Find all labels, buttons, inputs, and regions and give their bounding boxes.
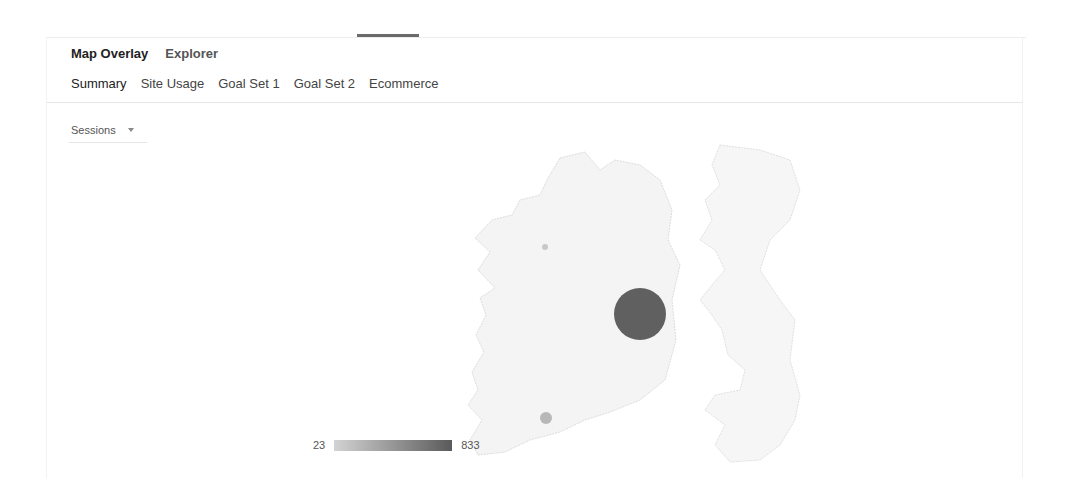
sub-tabs: Summary Site Usage Goal Set 1 Goal Set 2… [71,76,438,91]
subtab-summary[interactable]: Summary [71,76,127,91]
subtab-site-usage[interactable]: Site Usage [141,76,205,91]
metric-dropdown-value: Sessions [71,124,116,136]
subtab-goal-set-2[interactable]: Goal Set 2 [294,76,355,91]
map-overlay-panel: Map Overlay Explorer Summary Site Usage … [46,38,1023,478]
chevron-down-icon [128,128,134,132]
legend-min: 23 [313,439,325,451]
subtab-ecommerce[interactable]: Ecommerce [369,76,438,91]
metric-dropdown[interactable]: Sessions [69,122,147,143]
tab-explorer[interactable]: Explorer [165,46,218,61]
view-tabs: Map Overlay Explorer [71,46,218,61]
color-legend: 23 833 [313,439,480,451]
legend-max: 833 [461,439,479,451]
legend-gradient [334,440,452,451]
subtab-goal-set-1[interactable]: Goal Set 1 [218,76,279,91]
subtab-divider [47,102,1022,103]
tab-map-overlay[interactable]: Map Overlay [71,46,148,61]
